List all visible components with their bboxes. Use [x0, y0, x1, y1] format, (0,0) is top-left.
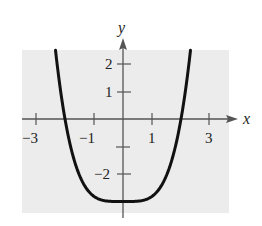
chart: −3 −1 1 3 2 1 −2 x y	[0, 0, 262, 226]
y-tick-label: 2	[105, 56, 113, 72]
plot-background	[22, 50, 229, 213]
chart-svg: −3 −1 1 3 2 1 −2 x y	[0, 0, 262, 226]
y-tick-label: −2	[94, 166, 110, 182]
y-tick-label: 1	[105, 84, 113, 100]
x-tick-label: −1	[79, 130, 95, 146]
y-axis-label: y	[116, 19, 126, 37]
x-tick-label: −3	[22, 130, 38, 146]
x-axis-label: x	[242, 110, 250, 127]
x-tick-label: 1	[148, 130, 156, 146]
x-tick-label: 3	[205, 130, 213, 146]
